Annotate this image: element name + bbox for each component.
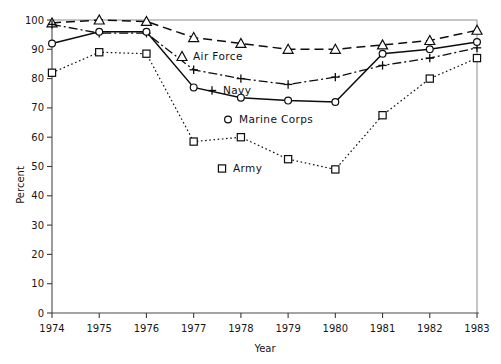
- marker-square: [48, 69, 55, 76]
- marker-triangle: [177, 52, 187, 61]
- marker-plus: [331, 73, 339, 81]
- marker-triangle: [472, 25, 482, 34]
- y-tick-label: 100: [25, 15, 44, 26]
- y-tick-label: 90: [31, 44, 44, 55]
- y-tick-label: 40: [31, 190, 44, 201]
- y-tick-label: 20: [31, 249, 44, 260]
- x-tick-label: 1976: [134, 323, 159, 334]
- x-tick-label: 1982: [417, 323, 442, 334]
- marker-circle: [426, 46, 433, 53]
- marker-square: [96, 49, 103, 56]
- series-line: [52, 24, 477, 84]
- series-line: [52, 20, 477, 49]
- marker-circle: [143, 28, 150, 35]
- marker-plus: [426, 54, 434, 62]
- marker-square: [473, 54, 480, 61]
- marker-circle: [49, 40, 56, 47]
- marker-circle: [225, 116, 232, 123]
- x-tick-label: 1981: [370, 323, 395, 334]
- x-tick-label: 1975: [86, 323, 111, 334]
- marker-square: [237, 134, 244, 141]
- marker-square: [143, 50, 150, 57]
- marker-plus: [237, 74, 245, 82]
- marker-square: [190, 138, 197, 145]
- x-tick-label: 1980: [323, 323, 348, 334]
- x-tick-label: 1974: [39, 323, 64, 334]
- series-group: [47, 15, 482, 173]
- y-tick-label: 0: [38, 308, 44, 319]
- y-tick-label: 80: [31, 73, 44, 84]
- series-marine-corps: [49, 28, 481, 105]
- y-tick-label: 70: [31, 102, 44, 113]
- marker-circle: [190, 84, 197, 91]
- plot-frame: [52, 20, 477, 313]
- x-tick-label: 1978: [228, 323, 253, 334]
- marker-circle: [285, 97, 292, 104]
- legend-label: Marine Corps: [239, 113, 313, 125]
- y-tick-group: 0102030405060708090100: [25, 15, 52, 319]
- legend-item-navy: Navy: [208, 84, 252, 96]
- line-chart: 0102030405060708090100 Percent 197419751…: [0, 0, 501, 364]
- legend-label: Navy: [223, 84, 251, 96]
- marker-square: [285, 156, 292, 163]
- chart-container: 0102030405060708090100 Percent 197419751…: [0, 0, 501, 364]
- x-tick-label: 1979: [275, 323, 300, 334]
- legend-item-marine-corps: Marine Corps: [225, 113, 314, 125]
- y-axis-title: Percent: [15, 166, 26, 204]
- legend-label: Air Force: [193, 50, 243, 62]
- legend-label: Army: [233, 162, 262, 174]
- marker-circle: [474, 39, 481, 46]
- y-tick-label: 30: [31, 220, 44, 231]
- y-axis: 0102030405060708090100 Percent: [15, 15, 52, 319]
- x-axis-title: Year: [253, 343, 276, 354]
- x-axis: 1974197519761977197819791980198119821983…: [39, 313, 489, 354]
- series-army: [48, 49, 480, 173]
- series-line: [52, 52, 477, 169]
- marker-circle: [332, 99, 339, 106]
- legend-item-air-force: Air Force: [177, 50, 243, 62]
- legend-item-army: Army: [218, 162, 262, 174]
- series-air-force: [47, 15, 482, 53]
- y-tick-label: 50: [31, 161, 44, 172]
- x-tick-label: 1983: [464, 323, 489, 334]
- chart-legend: Air ForceNavyMarine CorpsArmy: [177, 50, 313, 174]
- y-tick-label: 10: [31, 278, 44, 289]
- marker-square: [332, 166, 339, 173]
- y-tick-label: 60: [31, 132, 44, 143]
- marker-square: [426, 75, 433, 82]
- marker-circle: [379, 50, 386, 57]
- x-tick-group: 1974197519761977197819791980198119821983: [39, 313, 489, 334]
- marker-plus: [189, 66, 197, 74]
- series-navy: [48, 20, 481, 88]
- marker-plus: [378, 61, 386, 69]
- marker-circle: [96, 28, 103, 35]
- marker-plus: [208, 86, 216, 94]
- marker-square: [218, 165, 225, 172]
- marker-plus: [284, 80, 292, 88]
- marker-square: [379, 112, 386, 119]
- x-tick-label: 1977: [181, 323, 206, 334]
